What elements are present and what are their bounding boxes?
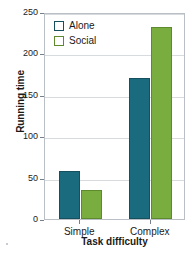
y-axis-tick-label: 50 (0, 174, 38, 183)
y-axis-tick-label: 200 (0, 49, 38, 58)
grid-line (45, 14, 184, 15)
y-axis-tick-label: 0 (0, 215, 38, 224)
bar-alone-simple (59, 171, 80, 219)
x-axis-tick (150, 220, 151, 224)
corner-speck (6, 243, 8, 245)
legend-swatch-alone (54, 21, 64, 31)
legend-label-social: Social (69, 36, 96, 46)
legend-swatch-social (54, 36, 64, 46)
y-axis-tick-label: 100 (0, 132, 38, 141)
plot-area: Alone Social (44, 13, 185, 220)
x-axis-tick (79, 220, 80, 224)
y-axis-tick-label: 150 (0, 91, 38, 100)
legend-item-alone: Alone (54, 19, 96, 32)
bar-alone-complex (129, 78, 150, 219)
y-axis-tick-label: 250 (0, 8, 38, 17)
bar-social-complex (151, 27, 172, 219)
legend-item-social: Social (54, 34, 96, 47)
y-axis-title: Running time (15, 42, 26, 162)
legend-label-alone: Alone (69, 21, 95, 31)
bar-chart-figure: Running time 050100150200250 Alone Socia… (0, 0, 192, 259)
bar-social-simple (81, 190, 102, 219)
chart-legend: Alone Social (54, 19, 96, 49)
x-axis-title: Task difficulty (44, 236, 185, 247)
